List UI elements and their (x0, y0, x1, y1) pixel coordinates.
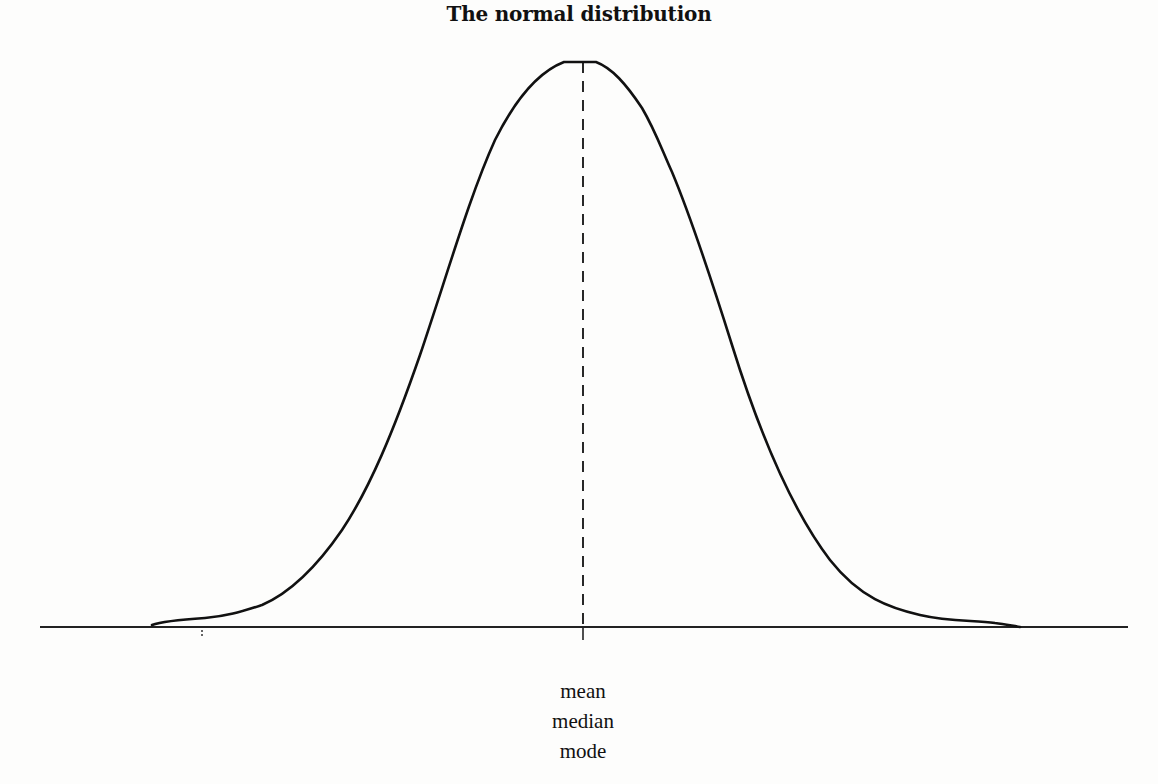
label-mean: mean (483, 676, 683, 706)
chart-plot-area (0, 0, 1158, 784)
label-median: median (483, 706, 683, 736)
normal-distribution-figure: The normal distribution mean median mode (0, 0, 1158, 784)
center-labels: mean median mode (483, 676, 683, 766)
normal-curve (152, 62, 1020, 627)
label-mode: mode (483, 736, 683, 766)
